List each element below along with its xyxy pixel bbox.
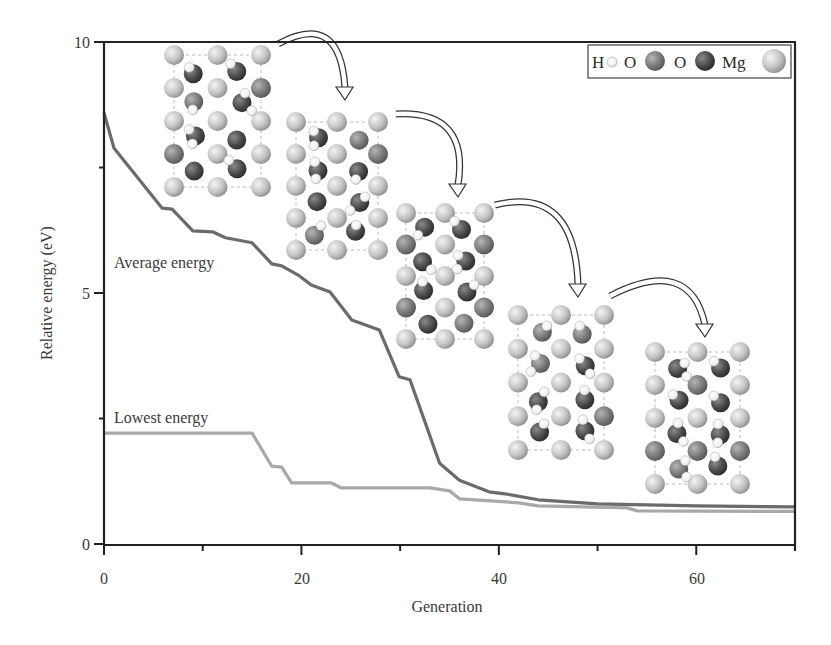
energy-chart: 0 20 40 60 0 5 10 Generation Relative en…	[0, 0, 831, 645]
legend-label-o2: O	[674, 53, 686, 72]
oxygen-light-atom-icon	[645, 51, 665, 71]
y-axis-title: Relative energy (eV)	[38, 226, 56, 360]
legend-label-mg: Mg	[722, 53, 746, 72]
average-energy-label: Average energy	[114, 254, 214, 272]
transition-arrow-3	[495, 202, 586, 297]
crystal-structure-4	[508, 305, 614, 460]
y-tick-10: 10	[74, 34, 90, 51]
crystal-structure-5	[645, 342, 750, 494]
transition-arrow-4	[610, 281, 713, 337]
y-tick-0: 0	[82, 536, 90, 553]
y-tick-5: 5	[82, 285, 90, 302]
legend-label-o1: O	[624, 53, 636, 72]
transition-arrow-1	[278, 34, 353, 100]
x-tick-60: 60	[689, 570, 705, 587]
lowest-energy-label: Lowest energy	[114, 409, 208, 427]
x-axis-title: Generation	[411, 598, 482, 615]
crystal-structure-2	[286, 112, 388, 260]
x-tick-0: 0	[100, 570, 108, 587]
x-tick-20: 20	[294, 570, 310, 587]
hydrogen-atom-icon	[607, 57, 617, 67]
transition-arrow-2	[396, 114, 466, 197]
crystal-structure-insets	[164, 45, 750, 494]
x-tick-40: 40	[491, 570, 507, 587]
crystal-structure-1	[164, 45, 271, 197]
legend-box	[588, 45, 791, 78]
crystal-structure-3	[396, 203, 494, 349]
legend-label-h: H	[592, 53, 604, 72]
axis-ticks	[94, 42, 696, 555]
magnesium-atom-icon	[762, 49, 786, 73]
oxygen-dark-atom-icon	[695, 51, 715, 71]
legend: H O O Mg	[588, 45, 791, 78]
